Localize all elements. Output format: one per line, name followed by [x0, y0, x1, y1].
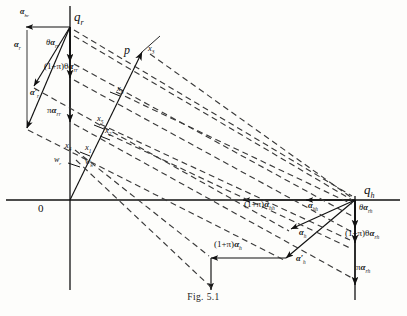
label-origin: 0 — [38, 203, 44, 214]
label-alpha-hh: αhh — [308, 201, 318, 212]
label-pi-alpha-rh: παrh — [356, 263, 370, 274]
dash-x2-line — [108, 134, 350, 248]
label-x2: x2 — [105, 126, 111, 137]
dash-x4-to-onepi-alpha-h — [75, 150, 209, 256]
label-pi-alpha-rr: παrr — [47, 106, 61, 117]
dash-x5-line — [100, 124, 350, 240]
dash-qr-to-qh-upper — [74, 30, 352, 196]
label-one-plus-pi-alpha-h: (1+π)αh — [214, 240, 242, 251]
vector-alpha-r — [34, 27, 70, 86]
label-x3: x3 — [148, 44, 154, 55]
figure-caption: Fig. 5.1 — [0, 292, 407, 302]
dash-qr-to-qh-upper2 — [74, 36, 352, 200]
figure-5-1: αhr qr αr θαrr (1+π)θαrr α′r παrr p x3 x… — [0, 0, 407, 316]
ray-p-group — [70, 36, 160, 200]
label-theta-alpha-rr: θαrr — [46, 38, 59, 49]
dash-x6-line — [116, 92, 352, 204]
label-one-plus-pi-theta-alpha-rh: (1+π)θαrh — [345, 229, 379, 240]
label-one-plus-pi-alpha-hh: (1+π)αhh — [244, 200, 275, 211]
dash-lower-long — [76, 160, 214, 290]
dash-theta-rr-to-qh — [74, 64, 352, 216]
label-w-r: wr — [54, 156, 61, 167]
label-one-plus-pi-theta-alpha-rr: (1+π)θαrr — [44, 62, 78, 73]
label-x5: x5 — [97, 114, 103, 125]
label-alpha-r: αr — [14, 40, 21, 51]
label-alpha-hr: αhr — [20, 8, 29, 19]
label-x6: x6 — [117, 84, 123, 95]
label-q-r: qr — [74, 10, 84, 27]
label-alpha-h-prime: α′h — [296, 254, 306, 265]
axes-group — [6, 6, 400, 300]
label-w-h: wh — [85, 158, 93, 169]
label-alpha-h: αh — [299, 228, 306, 239]
label-p: p — [124, 44, 130, 56]
label-x4: x4 — [65, 141, 71, 152]
label-theta-alpha-rh: θαrh — [359, 203, 372, 214]
label-alpha-r-prime: α′r — [30, 88, 39, 99]
label-q-h: qh — [364, 183, 375, 200]
label-x1: x1 — [85, 143, 91, 154]
